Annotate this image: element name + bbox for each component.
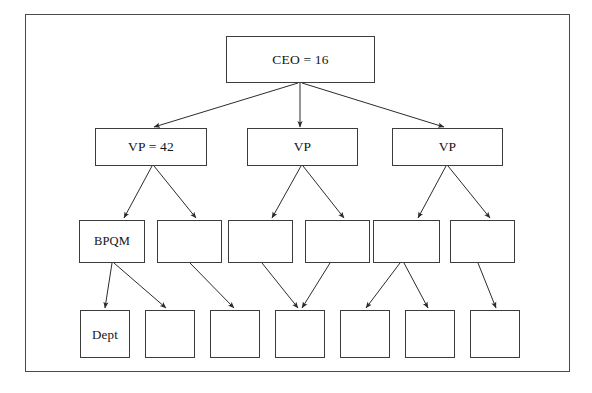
node-label-vp1: VP = 42 <box>128 140 174 154</box>
node-box-m1[interactable]: BPQM <box>79 220 145 263</box>
node-label-vp3: VP <box>439 140 457 154</box>
node-box-vp3[interactable]: VP <box>392 128 503 166</box>
node-label-m1: BPQM <box>94 235 130 248</box>
node-box-d5[interactable] <box>340 310 390 358</box>
node-box-d2[interactable] <box>145 310 195 358</box>
node-box-d1[interactable]: Dept <box>80 310 130 358</box>
node-box-d6[interactable] <box>405 310 455 358</box>
node-box-vp2[interactable]: VP <box>247 128 358 166</box>
node-label-d1: Dept <box>92 328 118 341</box>
node-box-d3[interactable] <box>210 310 260 358</box>
node-box-m5[interactable] <box>373 220 440 263</box>
node-box-d7[interactable] <box>470 310 520 358</box>
node-box-m3[interactable] <box>228 220 293 263</box>
diagram-canvas: CEO = 16VP = 42VPVPBPQMDept <box>0 0 592 393</box>
node-box-m2[interactable] <box>157 220 222 263</box>
node-box-m4[interactable] <box>305 220 370 263</box>
node-box-m6[interactable] <box>450 220 515 263</box>
node-box-d4[interactable] <box>275 310 325 358</box>
node-box-vp1[interactable]: VP = 42 <box>95 128 207 166</box>
node-label-vp2: VP <box>294 140 312 154</box>
node-box-ceo[interactable]: CEO = 16 <box>226 36 375 83</box>
node-label-ceo: CEO = 16 <box>272 53 328 67</box>
